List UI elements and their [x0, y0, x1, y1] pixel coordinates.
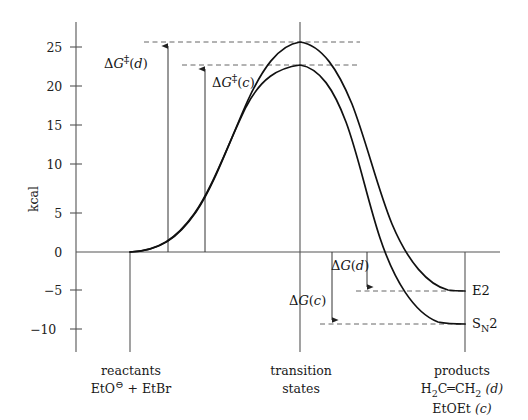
category-reactants-formula: EtO⊖ + EtBr — [70, 380, 192, 398]
y-tick-label-25: 25 — [22, 40, 62, 55]
endpoint-label-sn2-s: S — [472, 316, 481, 331]
reactants-formula-etbr: + EtBr — [128, 381, 172, 396]
products-ch-sub: 2 — [475, 387, 481, 398]
activation-label-c: ΔG‡(c) — [212, 72, 255, 90]
products-double-bond-icon: ═ — [447, 381, 455, 396]
products-ch: CH — [455, 381, 475, 396]
y-tick-label-neg5: −5 — [22, 283, 62, 298]
category-products-formula-2: EtOEt (c) — [396, 400, 528, 418]
category-reactants: reactants EtO⊖ + EtBr — [70, 362, 192, 398]
activation-label-d: ΔG‡(d) — [104, 53, 148, 71]
products-tag-d: (d) — [485, 381, 503, 396]
y-tick-label-neg10: −10 — [16, 322, 56, 337]
curve-elimination-d — [130, 42, 465, 291]
category-transition-title2: states — [246, 380, 356, 398]
reactants-formula-eto: EtO — [91, 381, 115, 396]
delta-label-c-text: ΔG(c) — [289, 293, 326, 308]
delta-label-c: ΔG(c) — [289, 293, 326, 308]
products-tag-c: (c) — [475, 401, 492, 416]
products-h: H — [421, 381, 432, 396]
category-products: products H2C═CH2 (d) EtOEt (c) — [396, 362, 528, 417]
products-etoet: EtOEt — [432, 401, 471, 416]
y-tick-label-15: 15 — [22, 118, 62, 133]
energy-diagram: 25 20 15 10 5 0 −5 −10 kcal ΔG‡(d) ΔG‡(c… — [0, 0, 528, 420]
category-products-title: products — [396, 362, 528, 380]
category-transition-title: transition — [246, 362, 356, 380]
activation-label-c-text: ΔG‡(c) — [212, 75, 255, 90]
endpoint-label-sn2: SN2 — [472, 316, 498, 334]
diagram-canvas — [0, 0, 528, 420]
y-tick-label-20: 20 — [22, 79, 62, 94]
category-reactants-title: reactants — [70, 362, 192, 380]
endpoint-label-e2: E2 — [472, 283, 490, 298]
endpoint-label-sn2-n: N — [481, 323, 489, 334]
delta-label-d-text: ΔG(d) — [331, 258, 369, 273]
reactants-formula-charge-icon: ⊖ — [115, 380, 123, 390]
endpoint-label-sn2-2: 2 — [489, 316, 497, 331]
category-products-formula-1: H2C═CH2 (d) — [396, 380, 528, 400]
y-axis-title: kcal — [26, 186, 41, 212]
products-c1: C — [438, 381, 448, 396]
activation-label-d-text: ΔG‡(d) — [104, 56, 148, 71]
category-transition-states: transition states — [246, 362, 356, 398]
y-tick-label-0: 0 — [22, 245, 62, 260]
y-tick-label-10: 10 — [22, 157, 62, 172]
delta-label-d: ΔG(d) — [331, 258, 369, 273]
curve-substitution-c — [130, 65, 465, 324]
